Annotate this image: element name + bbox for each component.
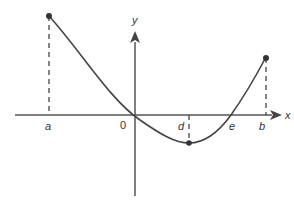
function-graph-diagram: x y 0 a d e b — [0, 0, 294, 206]
point-b — [263, 55, 269, 61]
label-e: e — [229, 120, 235, 132]
x-axis — [15, 110, 282, 120]
label-b: b — [259, 120, 265, 132]
label-a: a — [45, 120, 51, 132]
label-d: d — [178, 120, 185, 132]
origin-label: 0 — [120, 119, 126, 131]
x-axis-label: x — [284, 109, 291, 121]
point-a — [46, 13, 52, 19]
y-axis-arrow-icon — [130, 31, 140, 43]
y-axis-label: y — [131, 14, 139, 26]
point-d-minimum — [186, 140, 192, 146]
